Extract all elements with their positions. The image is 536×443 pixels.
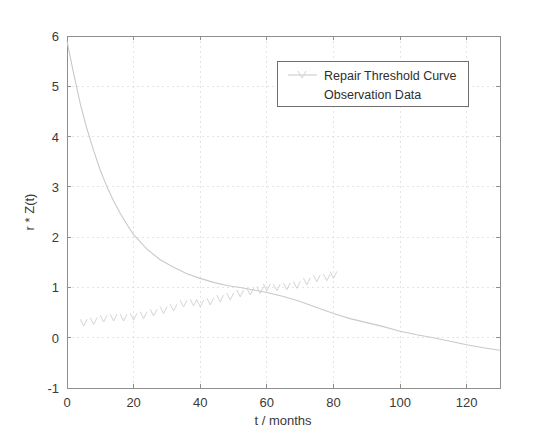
legend-entry-label-1: Observation Data [324, 88, 421, 102]
observation-marker [90, 318, 97, 325]
observation-marker [227, 293, 234, 300]
x-axis-title: t / months [254, 413, 312, 428]
observation-marker [180, 300, 187, 307]
observation-marker [273, 284, 280, 291]
y-tick-label: 4 [52, 130, 59, 145]
y-tick-label: 3 [52, 180, 59, 195]
y-tick-label: 1 [52, 280, 59, 295]
legend-entry-label-0: Repair Threshold Curve [324, 69, 457, 83]
legend[interactable]: Repair Threshold Curve Observation Data [277, 61, 468, 106]
y-tick-label: 2 [52, 230, 59, 245]
observation-marker [237, 290, 244, 297]
observation-data-series [80, 271, 337, 326]
y-tick-label: 5 [52, 79, 59, 94]
observation-marker [110, 314, 117, 321]
x-tick-label: 40 [193, 395, 207, 410]
observation-marker [313, 275, 320, 282]
x-tick-label: 100 [389, 395, 411, 410]
observation-marker [150, 309, 157, 316]
x-tick-label: 0 [63, 395, 70, 410]
x-tick-labels: 020406080100120 [63, 395, 477, 410]
y-tick-label: -1 [47, 381, 59, 396]
observation-marker [323, 274, 330, 281]
x-tick-label: 80 [326, 395, 340, 410]
x-tick-label: 60 [260, 395, 274, 410]
observation-marker [207, 298, 214, 305]
y-tick-labels: -10123456 [47, 29, 59, 396]
observation-marker [120, 314, 127, 321]
y-axis-title: r * Z(t) [22, 194, 37, 231]
x-tick-label: 20 [126, 395, 140, 410]
observation-marker [283, 283, 290, 290]
observation-marker [140, 312, 147, 319]
plot-canvas: 020406080100120 -10123456 t / months r *… [0, 0, 536, 443]
observation-marker [217, 295, 224, 302]
observation-marker [160, 307, 167, 314]
y-tick-label: 0 [52, 331, 59, 346]
observation-marker [293, 282, 300, 289]
observation-marker [80, 319, 87, 326]
y-tick-label: 6 [52, 29, 59, 44]
observation-marker [100, 315, 107, 322]
observation-marker [190, 299, 197, 306]
observation-marker [303, 278, 310, 285]
x-tick-label: 120 [456, 395, 478, 410]
chart-figure: 020406080100120 -10123456 t / months r *… [0, 0, 536, 443]
observation-marker [170, 304, 177, 311]
